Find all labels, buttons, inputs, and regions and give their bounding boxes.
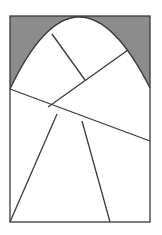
cross-line xyxy=(10,89,150,141)
trapezoid-left-leg xyxy=(10,114,57,222)
arch-inner-divider xyxy=(52,34,85,80)
arch-diagonal xyxy=(48,50,128,107)
trapezoid-right-leg xyxy=(82,121,110,222)
dissection-figure xyxy=(0,0,162,235)
